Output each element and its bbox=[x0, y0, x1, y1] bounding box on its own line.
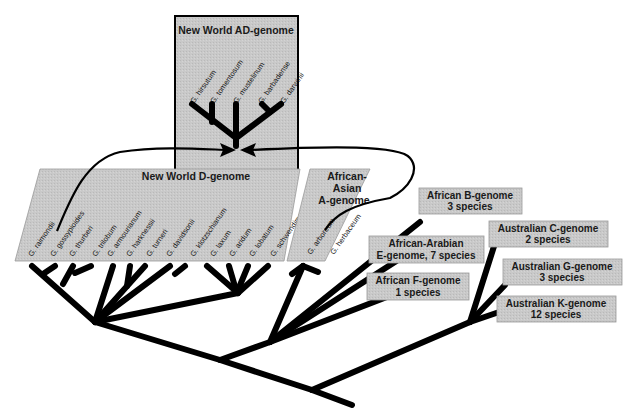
a-genome-title-2: Asian bbox=[333, 182, 362, 194]
f-genome-box: African F-genome 1 species bbox=[367, 273, 469, 300]
e-genome-box: African-Arabian E-genome, 7 species bbox=[369, 236, 484, 263]
ad-genome-title: New World AD-genome bbox=[178, 24, 294, 36]
c-genome-count: 2 species bbox=[525, 234, 570, 245]
b-genome-label: African B-genome bbox=[427, 190, 514, 201]
f-genome-count: 1 species bbox=[395, 287, 440, 298]
phylogeny-diagram: New World AD-genome G. hirsutum G. tomen… bbox=[0, 0, 635, 419]
k-genome-count: 12 species bbox=[531, 309, 582, 320]
k-genome-label: Australian K-genome bbox=[506, 298, 607, 309]
k-genome-box: Australian K-genome 12 species bbox=[497, 296, 616, 322]
g-genome-count: 3 species bbox=[539, 272, 584, 283]
c-genome-label: Australian C-genome bbox=[498, 223, 599, 234]
a-genome-box: African- Asian A-genome G. arboreum G. h… bbox=[287, 169, 370, 261]
e-genome-label: African-Arabian bbox=[388, 238, 463, 249]
g-genome-label: Australian G-genome bbox=[511, 261, 613, 272]
b-genome-count: 3 species bbox=[447, 201, 492, 212]
d-genome-title: New World D-genome bbox=[142, 170, 250, 182]
d-genome-box: New World D-genome G. raimondii G. gossy… bbox=[15, 169, 310, 261]
g-genome-box: Australian G-genome 3 species bbox=[503, 259, 622, 285]
b-genome-box: African B-genome 3 species bbox=[419, 188, 522, 214]
c-genome-box: Australian C-genome 2 species bbox=[489, 221, 608, 247]
f-genome-label: African F-genome bbox=[375, 275, 460, 286]
e-genome-count: E-genome, 7 species bbox=[377, 250, 476, 261]
a-genome-title-1: African- bbox=[327, 170, 367, 182]
